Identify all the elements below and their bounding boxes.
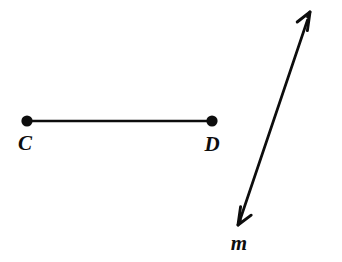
line-m-label: m [231,231,247,255]
point-d-dot [206,115,217,126]
point-d-label: D [203,132,219,156]
figure-background [0,0,342,262]
figure-canvas: C D m [0,0,342,262]
point-c-dot [21,115,32,126]
geometry-figure: C D m [0,0,342,262]
point-c-label: C [18,131,33,155]
